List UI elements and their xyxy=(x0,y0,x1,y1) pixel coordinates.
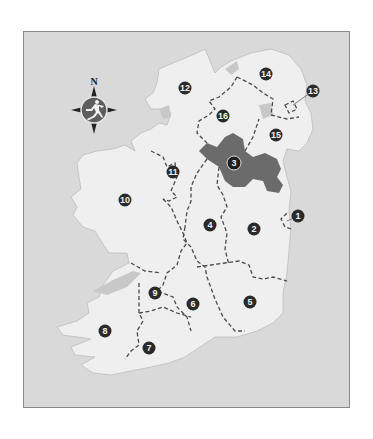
region-label-15[interactable]: 15 xyxy=(270,129,283,142)
region-label-2[interactable]: 2 xyxy=(248,223,261,236)
region-label-8[interactable]: 8 xyxy=(99,325,112,338)
compass: N xyxy=(69,76,119,138)
region-label-9[interactable]: 9 xyxy=(149,287,162,300)
region-label-11[interactable]: 11 xyxy=(167,166,180,179)
compass-north-point-icon xyxy=(91,86,97,98)
region-label-14[interactable]: 14 xyxy=(260,68,273,81)
region-label-1[interactable]: 1 xyxy=(292,210,305,223)
compass-south-point-icon xyxy=(91,122,97,134)
region-label-4[interactable]: 4 xyxy=(204,219,217,232)
map-frame: N 1 2 3 4 5 6 7 8 9 10 11 12 13 14 15 16 xyxy=(23,31,350,408)
region-label-3[interactable]: 3 xyxy=(227,156,242,171)
region-label-10[interactable]: 10 xyxy=(119,194,132,207)
compass-dial xyxy=(81,97,107,123)
region-label-7[interactable]: 7 xyxy=(143,342,156,355)
region-label-13[interactable]: 13 xyxy=(307,85,320,98)
region-label-12[interactable]: 12 xyxy=(179,82,192,95)
region-label-16[interactable]: 16 xyxy=(217,110,230,123)
region-label-6[interactable]: 6 xyxy=(187,298,200,311)
region-label-5[interactable]: 5 xyxy=(244,296,257,309)
compass-north-label: N xyxy=(90,76,98,87)
